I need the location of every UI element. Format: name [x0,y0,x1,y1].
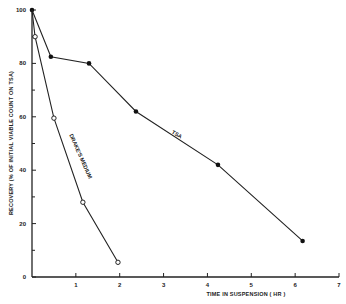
x-tick-label: 1 [74,282,78,288]
filled-circle-marker [134,109,139,114]
open-circle-marker [116,260,120,264]
open-circle-marker [52,116,56,120]
y-tick-label: 80 [19,60,26,66]
y-tick-label: 20 [19,221,26,227]
open-circle-marker [81,200,85,204]
series-lines: TSADRAKE'S MEDIUM [30,8,305,265]
y-tick-label: 0 [23,274,27,280]
x-tick-label: 4 [206,282,210,288]
x-tick-label: 3 [162,282,166,288]
y-axis-title: RECOVERY (% OF INITIAL VIABLE COUNT ON T… [8,71,14,215]
x-tick-label: 7 [337,282,341,288]
axes: 1234567020406080100 [16,7,341,288]
filled-circle-marker [87,61,92,66]
x-tick-label: 5 [250,282,254,288]
open-circle-marker [33,35,37,39]
y-tick-label: 40 [19,167,26,173]
x-axis-title: TIME IN SUSPENSION ( HR ) [207,291,286,297]
y-tick-label: 60 [19,114,26,120]
x-tick-label: 6 [293,282,297,288]
chart: 1234567020406080100 TSADRAKE'S MEDIUM TI… [0,0,346,304]
filled-circle-marker [49,54,54,59]
series-line-tsa [32,10,303,241]
series-label-drakes-medium: DRAKE'S MEDIUM [68,133,93,180]
y-tick-label: 100 [16,7,27,13]
filled-circle-marker [300,239,305,244]
x-tick-label: 2 [118,282,122,288]
filled-circle-marker [216,163,221,168]
